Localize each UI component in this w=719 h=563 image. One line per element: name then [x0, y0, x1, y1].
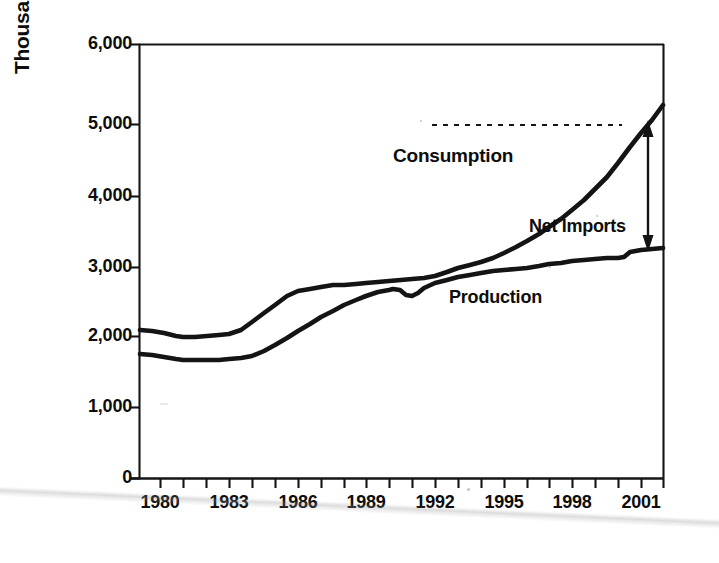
annotation-net-imports: Net Imports	[529, 216, 626, 237]
annotation-consumption: Consumption	[393, 145, 513, 167]
annotation-production: Production	[449, 287, 542, 308]
series-line-production	[140, 248, 663, 360]
net-imports-gap-arrow	[643, 120, 654, 252]
